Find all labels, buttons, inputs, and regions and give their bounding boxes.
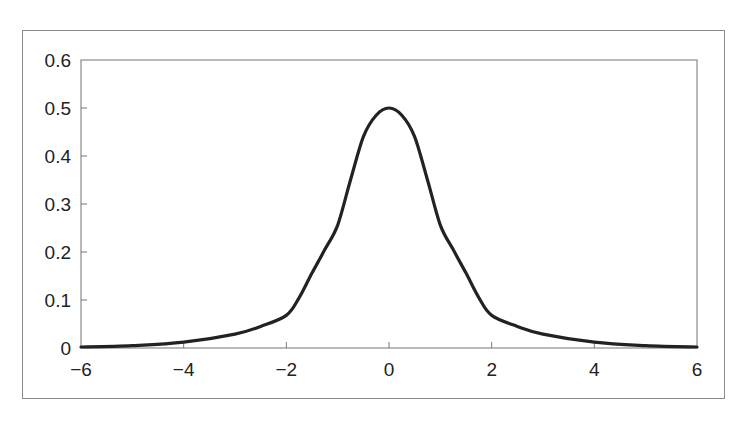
- y-tick-label: 0: [60, 338, 71, 359]
- x-tick-label: 2: [486, 359, 497, 380]
- y-tick-label: 0.6: [45, 50, 71, 71]
- x-tick-label: 6: [692, 359, 703, 380]
- x-tick-label: −2: [275, 359, 297, 380]
- line-chart: 00.10.20.30.40.50.6 −6−4−20246: [0, 0, 743, 424]
- x-tick-label: −6: [70, 359, 92, 380]
- y-tick-label: 0.5: [45, 98, 71, 119]
- y-tick-label: 0.4: [45, 146, 72, 167]
- x-tick-label: −4: [173, 359, 195, 380]
- x-tick-label: 4: [589, 359, 600, 380]
- y-tick-label: 0.2: [45, 242, 71, 263]
- y-tick-label: 0.1: [45, 290, 71, 311]
- y-tick-label: 0.3: [45, 194, 71, 215]
- x-tick-label: 0: [384, 359, 395, 380]
- density-curve: [81, 108, 697, 347]
- plot-area: [81, 60, 697, 348]
